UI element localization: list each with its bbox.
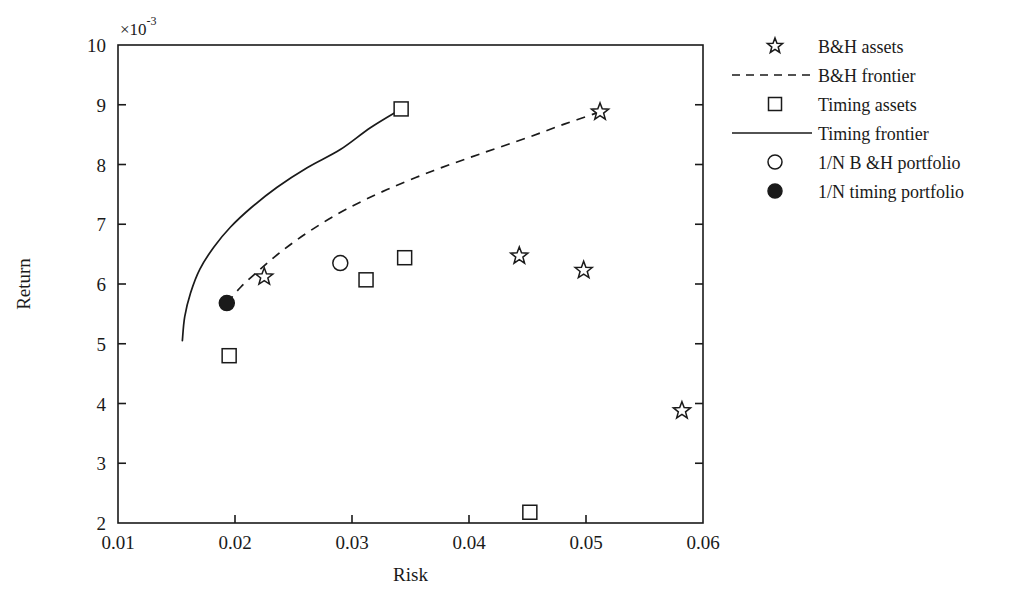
timing-asset-marker [523, 505, 537, 519]
y-axis-exponent-label: ×10-3 [120, 14, 157, 39]
timing-asset-marker [222, 349, 236, 363]
legend-item[interactable]: B&H assets [767, 37, 903, 57]
legend-item-label: 1/N timing portfolio [818, 182, 964, 202]
y-tick-label: 4 [97, 394, 107, 415]
x-tick-label: 0.01 [101, 532, 134, 553]
legend-item-label: Timing frontier [818, 124, 929, 144]
bh-asset-marker [256, 268, 273, 284]
y-tick-label: 10 [87, 35, 106, 56]
circle-open-icon [768, 155, 782, 169]
data-markers [219, 102, 690, 519]
y-axis-multiplier-exponent: -3 [147, 14, 157, 28]
one-over-n-timing-marker [219, 296, 234, 311]
y-axis-tick-labels: 2345678910 [87, 35, 107, 534]
y-tick-label: 2 [97, 513, 107, 534]
figure-container: 0.010.020.030.040.050.06 2345678910 Risk… [0, 0, 1009, 603]
legend-item[interactable]: Timing assets [769, 95, 917, 115]
frontier-curves [182, 109, 600, 341]
x-tick-label: 0.06 [686, 532, 719, 553]
bh-asset-marker [511, 247, 528, 263]
x-tick-label: 0.05 [569, 532, 602, 553]
legend-item-label: B&H assets [818, 37, 904, 57]
scatter-chart: 0.010.020.030.040.050.06 2345678910 Risk… [0, 0, 1009, 603]
legend-item[interactable]: B&H frontier [732, 66, 915, 86]
plot-area-border [118, 45, 703, 523]
y-tick-label: 6 [97, 274, 107, 295]
timing-frontier-curve [182, 109, 401, 341]
y-axis-title: Return [13, 258, 34, 310]
timing-asset-marker [394, 102, 408, 116]
y-tick-label: 7 [97, 214, 107, 235]
axis-ticks [118, 105, 703, 523]
bh-asset-marker [575, 261, 592, 277]
y-tick-label: 5 [97, 334, 107, 355]
plot-frame [118, 45, 703, 523]
timing-asset-marker [359, 273, 373, 287]
chart-legend: B&H assetsB&H frontierTiming assetsTimin… [732, 37, 964, 202]
legend-item-label: Timing assets [818, 95, 917, 115]
timing-asset-marker [398, 251, 412, 265]
legend-item-label: 1/N B &H portfolio [818, 153, 961, 173]
y-tick-label: 9 [97, 95, 107, 116]
bh-frontier-curve [227, 112, 600, 303]
legend-item[interactable]: 1/N B &H portfolio [768, 153, 961, 173]
x-tick-label: 0.02 [218, 532, 251, 553]
legend-item[interactable]: Timing frontier [732, 124, 929, 144]
bh-asset-marker [673, 402, 690, 418]
legend-item-label: B&H frontier [818, 66, 915, 86]
legend-item[interactable]: 1/N timing portfolio [768, 182, 964, 202]
square-open-icon [769, 98, 782, 111]
x-tick-label: 0.04 [452, 532, 486, 553]
circle-filled-icon [768, 184, 782, 198]
y-axis-multiplier: ×10 [120, 20, 147, 39]
y-tick-label: 8 [97, 155, 107, 176]
bh-asset-marker [591, 103, 608, 119]
x-axis-tick-labels: 0.010.020.030.040.050.06 [101, 532, 719, 553]
x-tick-label: 0.03 [335, 532, 368, 553]
star-open-icon [767, 38, 782, 52]
one-over-n-bh-marker [333, 256, 348, 271]
x-axis-title: Risk [393, 564, 428, 585]
y-tick-label: 3 [97, 453, 107, 474]
